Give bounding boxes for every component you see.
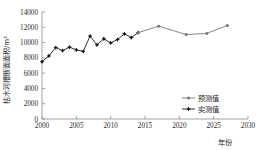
data-point <box>137 31 140 34</box>
y-axis-label: 枯水河槽断面面积/m² <box>2 36 11 104</box>
y-axis-ticks: 02000400060008000100001200014000 <box>20 9 45 124</box>
data-point <box>226 24 229 27</box>
y-tick-label: 6000 <box>24 70 39 78</box>
data-point <box>68 45 72 49</box>
y-tick-label: 10000 <box>20 39 38 47</box>
x-tick-label: 2005 <box>69 122 84 130</box>
x-tick-label: 2025 <box>206 122 221 130</box>
x-tick-label: 2000 <box>35 122 50 130</box>
legend-marker-dot <box>187 97 190 100</box>
chart-legend: 预测值实测值 <box>182 94 219 114</box>
series-measured <box>40 31 140 64</box>
y-tick-label: 2000 <box>24 100 39 108</box>
x-axis-label: 年份 <box>218 138 233 147</box>
y-tick-label: 4000 <box>24 85 39 93</box>
y-tick-label: 8000 <box>24 54 39 62</box>
data-point <box>74 48 78 52</box>
line-chart: 枯水河槽断面面积/m² 0200040006000800010000120001… <box>0 0 262 150</box>
legend-item: 实测值 <box>182 105 219 114</box>
series-predicted <box>137 24 229 36</box>
legend-label: 预测值 <box>198 94 219 103</box>
x-tick-label: 2010 <box>103 122 118 130</box>
data-point <box>205 32 208 35</box>
data-series-group <box>40 24 229 64</box>
chart-container: 枯水河槽断面面积/m² 0200040006000800010000120001… <box>0 0 262 150</box>
x-tick-label: 2015 <box>138 122 153 130</box>
x-tick-label: 2030 <box>241 122 256 130</box>
data-point <box>81 49 85 53</box>
x-axis-ticks: 2000200520102015202020252030 <box>35 116 256 130</box>
legend-marker-cross <box>187 107 191 111</box>
legend-item: 预测值 <box>182 94 219 103</box>
legend-label: 实测值 <box>198 105 219 114</box>
y-tick-label: 12000 <box>20 24 38 32</box>
y-tick-label: 14000 <box>20 9 38 17</box>
data-point <box>157 25 160 28</box>
data-point <box>61 49 65 53</box>
data-point <box>185 33 188 36</box>
x-tick-label: 2020 <box>172 122 187 130</box>
